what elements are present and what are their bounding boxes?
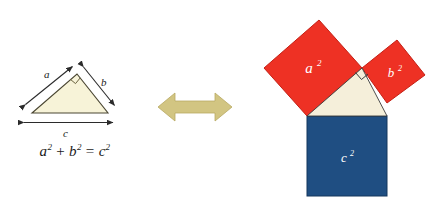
pythagorean-equation: a2 + b2 = c2: [0, 142, 150, 160]
equation-exponent-a: 2: [47, 142, 52, 152]
square-b-label-base: b: [388, 65, 395, 80]
equation-plus-sign: +: [56, 143, 65, 159]
arrow-shape: [158, 93, 232, 121]
squares-diagram: a 2 b 2 c 2: [240, 0, 442, 208]
square-a-label-base: a: [305, 60, 313, 76]
pythagorean-theorem-figure: a b c a2 + b2 = c2: [0, 0, 442, 208]
square-c-label-base: c: [341, 150, 347, 165]
double-headed-arrow-icon: [150, 0, 240, 208]
equation-exponent-b: 2: [77, 142, 82, 152]
square-a-label-exponent: 2: [317, 58, 322, 68]
equation-equals-sign: =: [86, 143, 95, 159]
label-side-a: a: [44, 68, 50, 80]
label-side-c: c: [63, 127, 68, 139]
equation-term-c: c: [99, 143, 106, 159]
equation-exponent-c: 2: [106, 142, 111, 152]
square-c-label-exponent: 2: [350, 149, 354, 158]
left-panel-triangle: a b c a2 + b2 = c2: [0, 0, 150, 208]
right-panel-squares: a 2 b 2 c 2: [240, 0, 442, 208]
equation-term-b: b: [69, 143, 77, 159]
triangle-diagram: a b c: [0, 0, 150, 150]
square-b-label-exponent: 2: [398, 64, 402, 73]
square-c: [307, 116, 387, 196]
middle-panel-arrow: [150, 0, 240, 208]
label-side-b: b: [101, 76, 107, 88]
